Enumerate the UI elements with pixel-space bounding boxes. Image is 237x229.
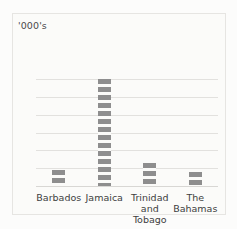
bar-the-bahamas[interactable]	[189, 172, 202, 186]
gridline-0	[36, 186, 218, 187]
y-axis-unit-label: '000's	[18, 20, 47, 31]
bar-chart-figure: '000's 6005004003002001000BarbadosJamaic…	[0, 0, 237, 229]
gridline-300	[36, 133, 218, 134]
gridline-400	[36, 115, 218, 116]
gridline-200	[36, 150, 218, 151]
bar-trinidad-and-tobago[interactable]	[143, 163, 156, 186]
gridline-500	[36, 97, 218, 98]
plot-area: 6005004003002001000BarbadosJamaicaTrinid…	[36, 38, 218, 189]
gridline-100	[36, 168, 218, 169]
gridline-600	[36, 79, 218, 80]
x-axis-label-the-bahamas: The Bahamas	[169, 192, 223, 214]
bar-barbados[interactable]	[52, 170, 65, 186]
bar-jamaica[interactable]	[98, 79, 111, 186]
